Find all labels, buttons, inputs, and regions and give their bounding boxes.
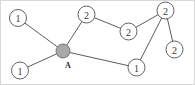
node-top-2[interactable]: 2: [78, 6, 95, 23]
node-upper-left-1[interactable]: 1: [10, 10, 27, 27]
edge-top-right-2-to-right-2: [167, 19, 172, 41]
node-right-2-label: 2: [172, 45, 177, 56]
node-bottom-1-label: 1: [134, 63, 139, 74]
node-top-right-2[interactable]: 2: [157, 2, 174, 19]
annotation-layer: A: [65, 61, 71, 70]
node-upper-left-1-label: 1: [16, 13, 21, 24]
edge-top-right-2-to-bottom-1: [140, 18, 161, 60]
node-lower-left-1-label: 1: [18, 66, 23, 77]
node-middle-2[interactable]: 2: [120, 23, 137, 40]
nodes-layer: 1122221: [10, 2, 184, 79]
edges-layer: [25, 15, 173, 67]
edge-top-2-to-middle-2: [94, 18, 120, 29]
node-top-right-2-label: 2: [163, 6, 168, 17]
node-right-2[interactable]: 2: [166, 41, 183, 58]
hub-node-annotation-label: A: [65, 61, 71, 70]
node-bottom-1[interactable]: 1: [128, 59, 145, 76]
node-hub-a[interactable]: [56, 44, 70, 58]
edge-middle-2-to-top-right-2: [136, 15, 158, 28]
node-lower-left-1[interactable]: 1: [12, 62, 29, 79]
edge-upper-left-to-hub: [25, 23, 58, 47]
node-hub-a-circle: [56, 44, 70, 58]
graph-figure: 1122221 A: [0, 0, 195, 85]
edge-hub-to-top-2: [67, 22, 82, 45]
graph-canvas: 1122221 A: [0, 0, 195, 85]
node-middle-2-label: 2: [126, 27, 131, 38]
node-top-2-label: 2: [84, 10, 89, 21]
edge-hub-to-bottom-1: [70, 53, 128, 66]
edge-lower-left-to-hub: [28, 54, 57, 67]
